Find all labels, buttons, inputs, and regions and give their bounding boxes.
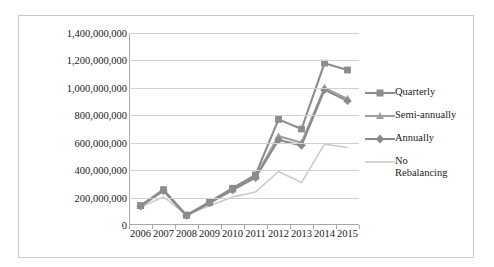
x-axis-tick-label: 2007 xyxy=(153,228,174,239)
legend-marker-line-icon xyxy=(365,156,395,168)
x-axis-tick-label: 2011 xyxy=(245,228,266,239)
legend-marker-triangle-icon xyxy=(365,110,395,122)
data-point-marker xyxy=(275,116,282,123)
gridline xyxy=(129,88,359,89)
gridline xyxy=(129,198,359,199)
x-axis-tick-label: 2009 xyxy=(199,228,220,239)
plot-area xyxy=(129,33,359,225)
x-axis-tick-label: 2012 xyxy=(268,228,289,239)
gridline xyxy=(129,33,359,34)
legend-item[interactable]: No Rebalancing xyxy=(365,155,477,179)
x-axis-tick-label: 2013 xyxy=(291,228,312,239)
x-axis-tick-label: 2015 xyxy=(337,228,358,239)
legend-label: No Rebalancing xyxy=(395,155,447,179)
x-axis-tick-label: 2006 xyxy=(130,228,151,239)
chart-legend: QuarterlySemi-annuallyAnnuallyNo Rebalan… xyxy=(365,86,477,189)
legend-label: Quarterly xyxy=(395,86,435,98)
y-axis-tick-label: 200,000,000 xyxy=(75,192,128,203)
x-axis-tick xyxy=(359,225,360,229)
x-axis-tick-label: 2008 xyxy=(176,228,197,239)
series-line xyxy=(141,63,348,215)
data-point-marker xyxy=(229,185,236,192)
y-axis-tick-label: 800,000,000 xyxy=(75,110,128,121)
y-axis-tick-label: 1,000,000,000 xyxy=(67,82,127,93)
y-axis-tick-label: 600,000,000 xyxy=(75,137,128,148)
data-point-marker xyxy=(160,186,167,193)
legend-label: Annually xyxy=(395,132,434,144)
x-axis-labels: 2006200720082009201020112012201320142015 xyxy=(129,228,359,248)
x-axis-tick-label: 2014 xyxy=(314,228,335,239)
gridline xyxy=(129,143,359,144)
y-axis-labels: 0200,000,000400,000,000600,000,000800,00… xyxy=(19,16,127,259)
data-point-marker xyxy=(344,67,351,74)
chart-plot-wrapper: 0200,000,000400,000,000600,000,000800,00… xyxy=(19,16,475,259)
series-lines xyxy=(129,33,359,225)
legend-item[interactable]: Annually xyxy=(365,132,477,145)
series-line xyxy=(141,144,348,215)
data-point-marker xyxy=(252,172,259,179)
gridline xyxy=(129,170,359,171)
x-axis-tick-label: 2010 xyxy=(222,228,243,239)
data-point-marker xyxy=(206,199,213,206)
data-point-marker xyxy=(183,212,190,219)
chart-figure: 0200,000,000400,000,000600,000,000800,00… xyxy=(18,15,474,258)
legend-marker-diamond-icon xyxy=(365,133,395,145)
gridline xyxy=(129,115,359,116)
y-axis-tick-label: 1,400,000,000 xyxy=(67,28,127,39)
legend-marker-square-icon xyxy=(365,87,395,99)
y-axis-tick-label: 1,200,000,000 xyxy=(67,55,127,66)
y-axis-tick-label: 400,000,000 xyxy=(75,165,128,176)
gridline xyxy=(129,60,359,61)
legend-item[interactable]: Semi-annually xyxy=(365,109,477,122)
legend-label: Semi-annually xyxy=(395,109,456,121)
data-point-marker xyxy=(137,202,144,209)
legend-item[interactable]: Quarterly xyxy=(365,86,477,99)
data-point-marker xyxy=(298,126,305,133)
y-axis-tick-label: 0 xyxy=(122,220,127,231)
